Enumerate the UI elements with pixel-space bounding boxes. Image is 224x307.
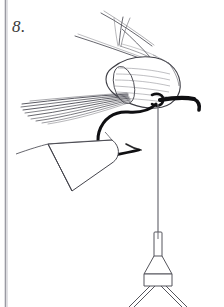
hook-shank <box>160 98 194 100</box>
bobbin-body <box>144 274 172 286</box>
step-number-label: 8. <box>12 18 26 35</box>
fly-tying-illustration <box>0 0 224 307</box>
figure-container: 8. <box>0 0 224 307</box>
